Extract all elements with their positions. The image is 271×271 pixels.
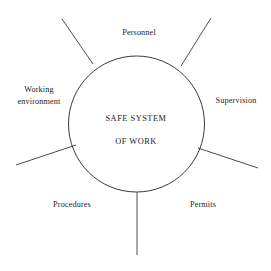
diagram-canvas: SAFE SYSTEM OF WORK Personnel Supervisio… (0, 0, 271, 271)
center-label-line-1: SAFE SYSTEM (105, 114, 166, 123)
diagram-graphics (0, 0, 271, 271)
center-label-line-2: OF WORK (115, 137, 157, 146)
spoke-line-permits (198, 148, 258, 168)
spoke-line-supervision (181, 18, 211, 66)
spoke-line-personnel (62, 19, 93, 64)
spoke-line-working-environment (16, 145, 76, 165)
central-circle (69, 56, 205, 192)
